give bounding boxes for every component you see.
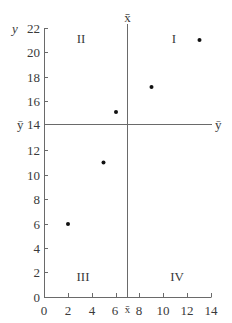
svg-text:10: 10 bbox=[157, 303, 170, 318]
svg-text:8: 8 bbox=[34, 192, 41, 207]
svg-text:0: 0 bbox=[34, 290, 41, 305]
data-point bbox=[198, 38, 202, 42]
svg-text:2: 2 bbox=[34, 265, 41, 280]
data-point bbox=[114, 110, 118, 114]
svg-text:16: 16 bbox=[27, 94, 41, 109]
quadrant-label-IV: IV bbox=[170, 269, 184, 284]
x-mean-label-top: x̄ bbox=[124, 10, 131, 25]
quadrant-label-I: I bbox=[172, 31, 176, 46]
svg-text:6: 6 bbox=[34, 217, 41, 232]
quadrant-label-III: III bbox=[77, 269, 90, 284]
svg-text:12: 12 bbox=[181, 303, 194, 318]
quadrant-label-II: II bbox=[77, 31, 86, 46]
svg-text:14: 14 bbox=[205, 303, 219, 318]
data-point bbox=[150, 85, 154, 89]
svg-text:4: 4 bbox=[89, 303, 96, 318]
data-points bbox=[66, 38, 202, 226]
svg-text:12: 12 bbox=[27, 143, 40, 158]
y-tick-labels: 22 20 18 16 14 12 10 8 6 4 2 0 bbox=[27, 21, 41, 305]
y-mean-label-left: ȳ bbox=[17, 117, 24, 132]
x-mean-label-bottom: x̄ bbox=[125, 303, 131, 315]
y-mean-label-right: ȳ bbox=[215, 117, 222, 132]
svg-text:2: 2 bbox=[65, 303, 72, 318]
svg-text:22: 22 bbox=[27, 21, 40, 36]
data-point bbox=[66, 222, 70, 226]
svg-text:20: 20 bbox=[27, 45, 40, 60]
scatter-chart: 22 20 18 16 14 12 10 8 6 4 2 0 0 2 4 6 8… bbox=[0, 0, 232, 323]
svg-text:14: 14 bbox=[27, 117, 41, 132]
y-axis-title: y bbox=[10, 21, 18, 36]
svg-text:10: 10 bbox=[27, 168, 40, 183]
svg-text:18: 18 bbox=[27, 70, 40, 85]
data-point bbox=[102, 161, 106, 165]
svg-text:0: 0 bbox=[41, 303, 48, 318]
svg-text:8: 8 bbox=[136, 303, 143, 318]
svg-text:6: 6 bbox=[112, 303, 119, 318]
svg-text:4: 4 bbox=[34, 241, 41, 256]
